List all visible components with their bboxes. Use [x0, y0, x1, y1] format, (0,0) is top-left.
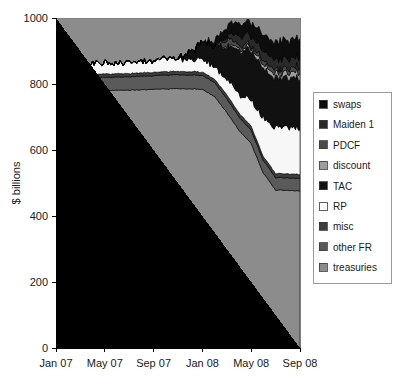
stacked-area-chart: 10008006004002000Jan 07May 07Sep 07Jan 0…: [0, 0, 393, 390]
x-tick-label: May 07: [87, 357, 123, 369]
x-tick-label: Sep 08: [283, 357, 318, 369]
legend-swatch-pdcf: [319, 141, 327, 149]
y-tick-label: 800: [30, 78, 48, 90]
legend-swatch-treasuries: [319, 263, 327, 271]
chart-canvas: 10008006004002000Jan 07May 07Sep 07Jan 0…: [0, 0, 393, 390]
y-tick-label: 200: [30, 276, 48, 288]
x-tick-label: Jan 07: [39, 357, 72, 369]
legend-label-tac: TAC: [333, 181, 352, 192]
x-tick-label: Sep 07: [136, 357, 171, 369]
legend-swatch-other-fr: [319, 243, 327, 251]
legend-label-pdcf: PDCF: [333, 140, 360, 151]
legend-swatch-rp: [319, 202, 327, 210]
y-tick-label: 400: [30, 210, 48, 222]
x-tick-label: May 08: [233, 357, 269, 369]
legend-label-rp: RP: [333, 201, 347, 212]
legend-label-misc: misc: [333, 221, 354, 232]
legend-label-treasuries: treasuries: [333, 262, 377, 273]
legend-label-other-fr: other FR: [333, 242, 372, 253]
legend-swatch-maiden-1: [319, 120, 327, 128]
legend-swatch-misc: [319, 222, 327, 230]
legend-swatch-discount: [319, 161, 327, 169]
legend-label-discount: discount: [333, 160, 370, 171]
x-tick-label: Jan 08: [186, 357, 219, 369]
y-axis-title: $ billions: [10, 161, 22, 204]
y-tick-label: 1000: [24, 12, 48, 24]
y-tick-label: 600: [30, 144, 48, 156]
legend-label-maiden-1: Maiden 1: [333, 119, 375, 130]
legend-swatch-tac: [319, 182, 327, 190]
legend-label-swaps: swaps: [333, 99, 361, 110]
y-tick-label: 0: [42, 342, 48, 354]
legend-swatch-swaps: [319, 100, 327, 108]
